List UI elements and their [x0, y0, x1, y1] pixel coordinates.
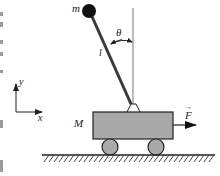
- cart-wheel-right: [148, 139, 164, 155]
- pendulum-bob: [82, 4, 96, 18]
- label-cart-mass: M: [74, 118, 83, 129]
- label-axis-x: x: [38, 113, 42, 123]
- label-force: F: [185, 110, 192, 121]
- pendulum-rod: [90, 12, 131, 104]
- angle-arc: [111, 40, 132, 45]
- coordinate-axes: [16, 84, 42, 112]
- cart-wheel-left: [102, 139, 118, 155]
- pivot-hinge: [127, 104, 140, 112]
- label-angle-theta: θ: [116, 27, 121, 38]
- cart-body: [93, 112, 173, 139]
- ground: [42, 155, 215, 162]
- diagram-canvas: [0, 0, 220, 176]
- label-axis-y: y: [19, 77, 23, 87]
- label-pendulum-mass: m: [72, 3, 80, 14]
- inverted-pendulum-diagram: m θ l M → F y x: [0, 0, 220, 176]
- label-rod-length: l: [99, 48, 102, 58]
